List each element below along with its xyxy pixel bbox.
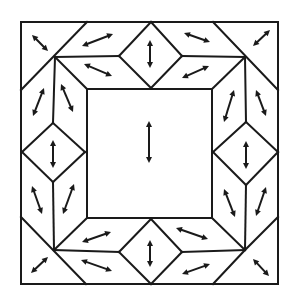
double-arrow-icon-left-upper-inner (61, 84, 74, 112)
arrowhead-icon (50, 162, 56, 168)
arrowhead-icon (147, 261, 153, 267)
tile-edge (54, 218, 87, 250)
arrowhead-icon (229, 90, 235, 97)
double-arrow-icon-corner-top-right (253, 30, 270, 46)
tile-edge (182, 56, 245, 57)
arrowhead-icon (104, 231, 111, 237)
tile-edge (53, 182, 54, 250)
tile-edge (151, 219, 182, 252)
tile-edge (245, 57, 246, 122)
double-arrow-icon-corner-top-left (32, 35, 48, 51)
tile-edge (119, 22, 151, 56)
arrowhead-icon (203, 37, 210, 43)
arrowhead-icon (147, 40, 153, 46)
arrowhead-icon (146, 121, 152, 127)
arrowhead-icon (147, 62, 153, 68)
arrowhead-icon (261, 187, 267, 194)
double-arrow-icon-top-left-outer (82, 33, 113, 46)
tile-edge (151, 252, 182, 284)
tile-edge (119, 56, 151, 88)
tile-edge (212, 218, 245, 250)
arrowhead-icon (50, 140, 56, 146)
arrowhead-icon (255, 209, 261, 216)
double-arrow-icon-bottom-right-inner (176, 227, 208, 240)
arrowhead-icon (243, 141, 249, 147)
tile-edge (213, 122, 246, 152)
arrowhead-icon (243, 163, 249, 169)
double-arrow-icon-bottom-diamond (147, 240, 153, 267)
arrowhead-icon (184, 32, 191, 38)
double-arrow-icon-right-upper-inner (223, 90, 235, 122)
tile-edge (53, 123, 85, 152)
double-arrow-icon-bottom-right-outer (182, 263, 210, 275)
tile-edge (245, 217, 278, 250)
double-arrow-icon-top-right-outer (184, 32, 210, 43)
tile-edge (119, 252, 151, 284)
double-arrow-icon-bottom-left-outer (81, 259, 112, 272)
tile-edge (246, 122, 278, 152)
arrowhead-icon (147, 240, 153, 246)
double-arrow-icon-right-upper-outer (255, 90, 266, 116)
tile-edge (53, 152, 85, 182)
tile-edge (119, 219, 151, 252)
tile-edge (55, 56, 119, 57)
tile-edge (151, 22, 182, 56)
tile-edge (55, 57, 87, 89)
double-arrow-icon-right-lower-inner (223, 189, 235, 217)
tile-edge (22, 152, 53, 182)
double-arrow-icon-center (146, 121, 152, 163)
tile-edge (245, 185, 246, 250)
arrowhead-icon (82, 237, 89, 243)
double-arrow-icon-left-lower-inner (62, 184, 75, 214)
tile-edge (213, 250, 245, 284)
tile-edge (151, 56, 182, 88)
arrowhead-icon (146, 157, 152, 163)
tile-edge (246, 152, 278, 185)
tile-edge (212, 57, 245, 89)
quilt-border-diagram (0, 0, 296, 301)
arrowhead-icon (176, 227, 183, 233)
tile-edge (213, 152, 246, 185)
double-arrow-icon-right-diamond (243, 141, 249, 169)
tile-edge (182, 250, 245, 252)
arrowhead-icon (223, 115, 229, 122)
double-arrow-icon-top-diamond (147, 40, 153, 68)
tile-edge (54, 250, 119, 252)
arrowhead-icon (201, 234, 208, 240)
double-arrow-icon-left-lower-outer (31, 186, 43, 214)
tile-edge (53, 57, 55, 123)
double-arrow-icon-left-diamond (50, 140, 56, 168)
double-arrow-icon-corner-bottom-right (253, 259, 269, 276)
double-arrow-icon-left-upper-outer (32, 88, 44, 116)
tile-edge (22, 123, 53, 152)
double-arrow-icon-top-left-inner (84, 64, 112, 77)
double-arrow-icon-top-right-inner (182, 66, 209, 79)
double-arrow-icon-right-lower-outer (255, 187, 267, 216)
double-arrow-icon-bottom-left-inner (82, 231, 111, 243)
double-arrow-icon-corner-bottom-left (31, 257, 48, 273)
